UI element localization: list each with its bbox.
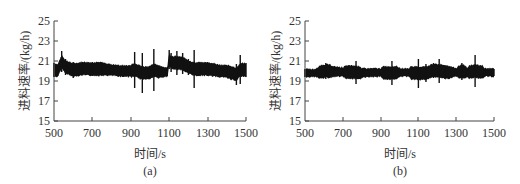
chart-b-svg: 15 17 19 21 23 25 500 700 900 1100 1300 …	[260, 0, 520, 184]
y-axis-label: 进料速率/(kg/h)	[17, 31, 32, 112]
series-band-b	[305, 55, 494, 88]
x-tick-label: 500	[296, 126, 314, 140]
x-tick-labels-b: 500 700 900 1100 1300 1500	[296, 126, 506, 140]
x-ticks-b	[343, 117, 494, 121]
y-tick-label: 23	[289, 34, 301, 48]
series-band-a	[54, 49, 246, 93]
chart-panel-b: 15 17 19 21 23 25 500 700 900 1100 1300 …	[260, 0, 520, 184]
x-tick-label: 700	[334, 126, 352, 140]
x-tick-label: 1100	[157, 126, 181, 140]
x-tick-label: 500	[45, 126, 63, 140]
panel-label: (b)	[393, 164, 407, 178]
panel-label: (a)	[143, 164, 156, 178]
y-tick-label: 19	[289, 74, 301, 88]
y-axis-label: 进料速率/(kg/h)	[268, 31, 283, 112]
y-tick-label: 23	[38, 34, 50, 48]
y-tick-label: 25	[38, 14, 50, 28]
x-tick-label: 1500	[234, 126, 258, 140]
y-tick-label: 19	[38, 74, 50, 88]
chart-a-svg: 15 17 19 21 23 25 500 700 900 1100 1300 …	[0, 0, 260, 184]
x-tick-labels-a: 500 700 900 1100 1300 1500	[45, 126, 258, 140]
y-tick-label: 25	[289, 14, 301, 28]
y-tick-label: 21	[289, 54, 301, 68]
x-axis-label: 时间/s	[134, 147, 166, 161]
x-tick-label: 700	[83, 126, 101, 140]
x-ticks-a	[92, 117, 246, 121]
y-tick-label: 17	[289, 94, 301, 108]
x-tick-label: 900	[372, 126, 390, 140]
x-tick-label: 1300	[444, 126, 468, 140]
y-tick-label: 21	[38, 54, 50, 68]
x-tick-label: 900	[122, 126, 140, 140]
chart-panel-a: 15 17 19 21 23 25 500 700 900 1100 1300 …	[0, 0, 260, 184]
x-tick-label: 1100	[406, 126, 430, 140]
x-axis-label: 时间/s	[384, 147, 416, 161]
y-tick-labels-b: 15 17 19 21 23 25	[289, 14, 301, 128]
x-tick-label: 1300	[196, 126, 220, 140]
y-tick-label: 17	[38, 94, 50, 108]
x-tick-label: 1500	[482, 126, 506, 140]
y-tick-labels-a: 15 17 19 21 23 25	[38, 14, 50, 128]
